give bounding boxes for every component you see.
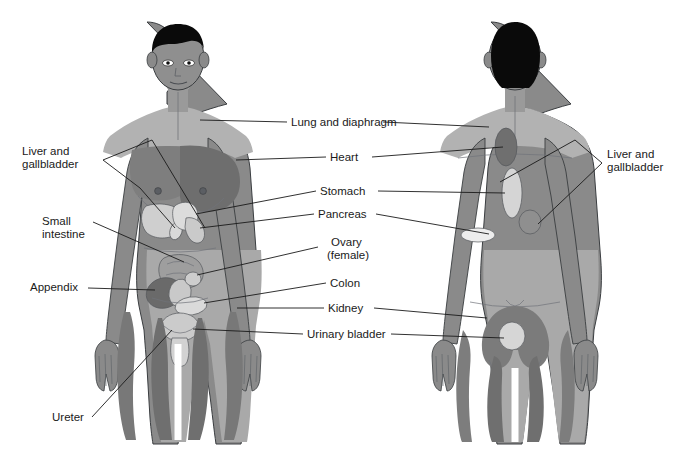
label-stomach: Stomach (320, 185, 365, 197)
label-ureter: Ureter (52, 411, 84, 423)
anatomy-illustration: Liver and gallbladder Small intestine Ap… (0, 0, 679, 449)
anterior-right-nipple (200, 188, 207, 195)
label-appendix: Appendix (30, 281, 78, 293)
anterior-right-pupil (187, 61, 191, 65)
zone-urinary-bladder-posterior (499, 322, 525, 350)
anterior-left-pupil (166, 61, 170, 65)
organ-urinary-bladder-anterior (161, 313, 199, 341)
anterior-left-nipple (155, 188, 162, 195)
label-pancreas: Pancreas (318, 208, 367, 220)
anterior-left-ear (147, 52, 157, 68)
label-liver-gallbladder-left: Liver and gallbladder (22, 145, 78, 170)
anterior-right-ear (199, 52, 209, 68)
label-heart: Heart (330, 151, 359, 163)
label-liver-gallbladder-right: Liver and gallbladder (607, 148, 663, 173)
label-colon: Colon (330, 277, 360, 289)
posterior-hair (491, 22, 540, 88)
label-urinary-bladder: Urinary bladder (307, 328, 386, 340)
organ-ovary-anterior (185, 272, 201, 286)
referred-pain-diagram: Liver and gallbladder Small intestine Ap… (0, 0, 679, 449)
zone-liver-posterior (519, 210, 541, 234)
label-ovary-female: Ovary (female) (327, 236, 369, 261)
label-kidney: Kidney (328, 302, 363, 314)
label-lung-diaphragm: Lung and diaphragm (291, 116, 397, 128)
